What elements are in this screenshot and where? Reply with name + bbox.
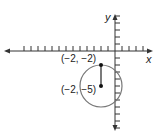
y-axis-label: y [104,11,112,23]
point-center [99,84,103,88]
y-axis-up-arrow-icon [113,14,118,20]
axis-ticks [24,16,143,128]
x-axis-left-arrow-icon [4,49,10,54]
coordinate-plane: y x (−2, −2) (−2, −5) [0,0,160,135]
point-center-label: (−2, −5) [61,84,96,95]
point-top [99,63,103,67]
x-axis-label: x [145,53,152,65]
point-top-label: (−2, −2) [61,53,96,64]
